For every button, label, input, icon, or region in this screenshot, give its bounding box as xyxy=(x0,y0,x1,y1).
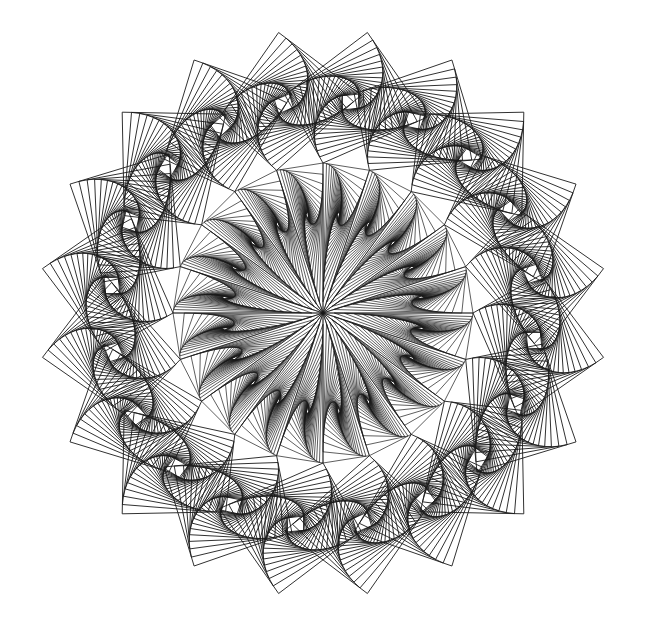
inner-pursuit-disk xyxy=(173,163,473,463)
mandala-artwork xyxy=(0,0,646,623)
